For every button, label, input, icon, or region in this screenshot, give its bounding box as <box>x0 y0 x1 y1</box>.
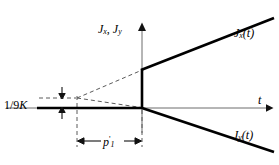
upper-asymptote-dashed <box>77 71 141 99</box>
figure-container: Jx, Jy Jx(t) Jy(t) t 1/9K p'1 <box>0 0 279 165</box>
y-axis-label-sub-y: y <box>118 27 122 36</box>
initial-value-label: 1/9K <box>4 99 27 111</box>
curve-jy-branch <box>142 108 274 152</box>
y-axis-arrowhead <box>138 23 146 32</box>
interval-label-sub: 1 <box>111 140 115 149</box>
curve-label-jy-arg: (t) <box>242 128 253 142</box>
y-axis-label: Jx, Jy <box>98 23 122 36</box>
vertical-gap-dimension <box>59 87 65 119</box>
curve-label-jx-arg: (t) <box>243 26 254 40</box>
x-axis-label: t <box>258 94 261 106</box>
interval-dimension-label: p'1 <box>103 136 114 149</box>
curve-label-jy: Jy(t) <box>233 129 253 142</box>
lower-asymptote-dashed <box>77 98 141 108</box>
gap-marker-upper-arrowhead <box>59 94 65 100</box>
interval-left-arrowhead <box>78 138 85 144</box>
initial-value-number: 1/9 <box>4 98 19 112</box>
x-axis-arrowhead <box>266 104 274 112</box>
interval-right-arrowhead <box>135 138 142 144</box>
initial-value-unit: K <box>19 98 27 112</box>
curve-label-jx: Jx(t) <box>234 27 254 40</box>
